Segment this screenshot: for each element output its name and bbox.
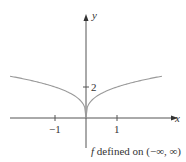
y-axis-label: y: [91, 9, 97, 21]
y-tick-label-2: 2: [91, 81, 97, 93]
caption-domain: defined on (−∞, ∞): [94, 145, 181, 158]
x-tick-label-neg1: −1: [49, 123, 61, 135]
function-graph: y x 2 −1 1 f defined on (−∞, ∞): [0, 0, 186, 162]
x-tick-label-1: 1: [114, 123, 120, 135]
chart-caption: f defined on (−∞, ∞): [91, 145, 181, 158]
x-axis-label: x: [174, 112, 180, 124]
y-axis-arrow-icon: [84, 14, 89, 21]
